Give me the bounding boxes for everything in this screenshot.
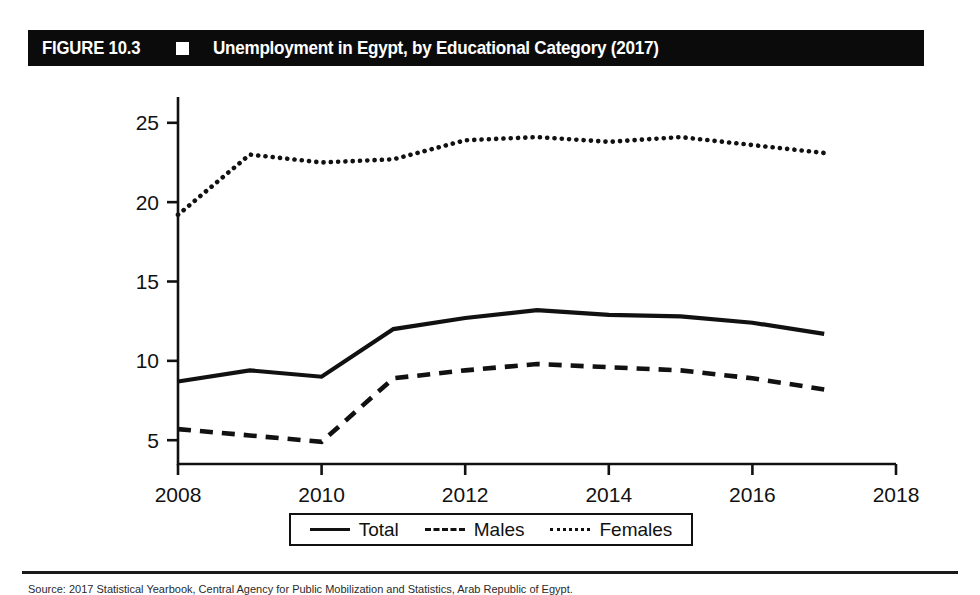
figure-title: Unemployment in Egypt, by Educational Ca… — [213, 37, 659, 59]
chart-area: 510152025200820102012201420162018 — [28, 72, 924, 542]
y-tick-label: 25 — [136, 111, 159, 134]
axis-lines — [178, 97, 896, 464]
chart-legend: TotalMalesFemales — [289, 513, 693, 546]
x-tick-label: 2012 — [442, 483, 489, 506]
footer-divider — [22, 571, 958, 574]
legend-label: Males — [474, 519, 525, 541]
legend-label: Females — [599, 519, 672, 541]
line-chart: 510152025200820102012201420162018 — [28, 72, 924, 542]
legend-swatch-solid — [310, 528, 350, 531]
x-tick-label: 2010 — [298, 483, 345, 506]
legend-item: Females — [550, 519, 672, 541]
series-line-males — [178, 364, 824, 442]
x-tick-label: 2008 — [155, 483, 202, 506]
x-tick-label: 2016 — [729, 483, 776, 506]
y-tick-label: 10 — [136, 349, 159, 372]
white-square-icon — [176, 42, 189, 55]
x-tick-label: 2014 — [585, 483, 632, 506]
y-tick-label: 5 — [147, 429, 159, 452]
figure-title-bar: FIGURE 10.3 Unemployment in Egypt, by Ed… — [28, 30, 924, 66]
figure-number: FIGURE 10.3 — [42, 37, 140, 59]
legend-swatch-dashed — [425, 528, 465, 531]
y-tick-label: 20 — [136, 191, 159, 214]
x-tick-label: 2018 — [873, 483, 920, 506]
y-tick-label: 15 — [136, 270, 159, 293]
legend-label: Total — [359, 519, 399, 541]
series-line-females — [178, 137, 824, 215]
series-line-total — [178, 310, 824, 381]
legend-item: Total — [310, 519, 399, 541]
figure-page: FIGURE 10.3 Unemployment in Egypt, by Ed… — [0, 0, 980, 595]
legend-item: Males — [425, 519, 525, 541]
source-note: Source: 2017 Statistical Yearbook, Centr… — [28, 583, 948, 595]
legend-swatch-dotted — [550, 528, 590, 531]
